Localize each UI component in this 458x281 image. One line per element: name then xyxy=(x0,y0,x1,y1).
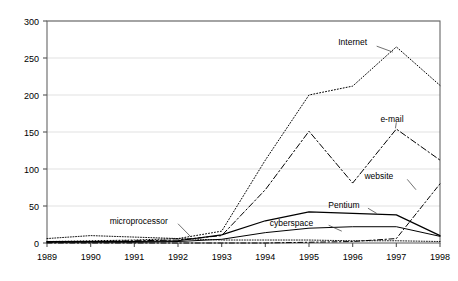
chart-container: 050100150200250300 198919901991199219931… xyxy=(0,0,458,281)
leader-line-pentium xyxy=(368,208,377,213)
x-tick-label-1993: 1993 xyxy=(212,252,232,262)
y-tick-label-250: 250 xyxy=(24,54,39,64)
series-label-pentium: Pentium xyxy=(328,200,359,210)
annotation-layer: Internete-mailwebsitePentiumcyberspacemi… xyxy=(110,37,416,237)
x-tick-label-1990: 1990 xyxy=(81,252,101,262)
x-tick-label-1995: 1995 xyxy=(299,252,319,262)
series-line-website xyxy=(47,184,440,243)
leader-line-internet xyxy=(377,46,393,52)
y-tick-label-100: 100 xyxy=(24,165,39,175)
series-label-cyberspace: cyberspace xyxy=(270,218,314,228)
leader-line-cyberspace xyxy=(329,225,342,231)
x-tick-label-1997: 1997 xyxy=(386,252,406,262)
y-tick-label-0: 0 xyxy=(34,239,39,249)
series-line-e-mail xyxy=(47,129,440,242)
leader-line-website xyxy=(407,179,416,189)
series-layer xyxy=(47,47,440,243)
series-label-microprocessor: microprocessor xyxy=(110,216,168,226)
series-label-website: website xyxy=(363,171,393,181)
y-tick-label-150: 150 xyxy=(24,128,39,138)
y-tick-label-200: 200 xyxy=(24,91,39,101)
x-tick-label-1994: 1994 xyxy=(255,252,275,262)
x-tick-label-1998: 1998 xyxy=(430,252,450,262)
y-axis-ticks: 050100150200250300 xyxy=(24,17,47,249)
y-tick-label-50: 50 xyxy=(29,202,39,212)
line-chart: 050100150200250300 198919901991199219931… xyxy=(0,0,458,281)
x-tick-label-1992: 1992 xyxy=(168,252,188,262)
series-label-internet: Internet xyxy=(338,37,367,47)
x-tick-label-1989: 1989 xyxy=(37,252,57,262)
x-tick-label-1991: 1991 xyxy=(124,252,144,262)
x-axis-ticks: 1989199019911992199319941995199619971998 xyxy=(37,243,450,262)
series-line-microprocessor xyxy=(47,236,440,242)
x-tick-label-1996: 1996 xyxy=(343,252,363,262)
leader-line-microprocessor xyxy=(178,224,191,237)
series-label-e-mail: e-mail xyxy=(380,114,403,124)
y-tick-label-300: 300 xyxy=(24,17,39,27)
